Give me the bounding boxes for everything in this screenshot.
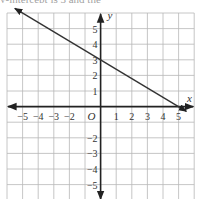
x-tick-label: 3 [145, 111, 150, 122]
y-tick-label: 4 [93, 39, 98, 50]
x-tick-label: 4 [161, 111, 166, 122]
y-axis-label: y [107, 9, 113, 21]
x-tick-label: −4 [33, 111, 44, 122]
y-tick-label: −4 [87, 164, 98, 175]
x-tick-label: −2 [64, 111, 75, 122]
y-tick-label: −3 [87, 148, 98, 159]
x-axis-label: x [186, 92, 192, 104]
y-tick-label: 1 [93, 86, 98, 97]
axes [8, 14, 193, 199]
x-tick-label: −3 [48, 111, 59, 122]
origin-label: O [88, 110, 96, 122]
tick-labels: −5−4−3−21234554321−2−3−4−5Oxy [17, 9, 192, 190]
x-tick-label: −5 [17, 111, 28, 122]
coordinate-plane-chart: −5−4−3−21234554321−2−3−4−5Oxy [0, 0, 197, 199]
x-tick-label: 5 [176, 111, 181, 122]
y-tick-label: −2 [87, 133, 98, 144]
y-tick-label: −5 [87, 180, 98, 191]
y-tick-label: 5 [93, 24, 98, 35]
y-tick-label: 2 [93, 70, 98, 81]
x-tick-label: 1 [114, 111, 119, 122]
x-tick-label: 2 [129, 111, 134, 122]
